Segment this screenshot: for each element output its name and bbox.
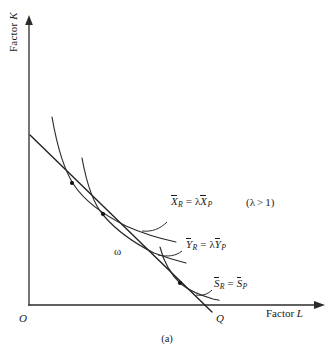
lambda-condition-label: (λ>1)	[246, 197, 274, 208]
isoquant-curve-x	[52, 117, 176, 242]
tangency-point-y	[101, 212, 105, 216]
curve-label-y-rhs-sub: P	[221, 243, 226, 252]
figure-caption: (a)	[0, 334, 334, 345]
curve-label-y-isoquant: YR=λYP	[186, 238, 226, 252]
point-q-label: Q	[216, 313, 224, 324]
y-axis-label-symbol: K	[8, 12, 19, 20]
lambda-condition-close: )	[271, 196, 275, 208]
y-axis	[25, 15, 33, 305]
isoquant-curve-s	[160, 247, 219, 300]
figure-container: Factor K Factor L O Q ω (λ>1) XR=λXP YR=…	[0, 0, 334, 360]
tangency-point-s	[178, 281, 182, 285]
y-axis-label-word: Factor	[7, 23, 19, 52]
lambda-condition-operator: >	[255, 196, 265, 208]
curve-label-x-lhs-symbol: X	[171, 196, 178, 207]
curve-label-s-isoquant: SR=SP	[214, 277, 247, 291]
x-axis-label: Factor L	[266, 308, 303, 319]
curve-label-s-lhs-symbol: S	[214, 278, 220, 289]
curve-label-x-rhs-sub: P	[207, 200, 212, 209]
isoquant-curve-y	[82, 158, 186, 263]
tangency-point-x	[70, 181, 74, 185]
x-axis-label-word: Factor	[266, 307, 294, 319]
y-axis-label: Factor K	[8, 12, 19, 52]
x-axis-label-symbol: L	[297, 308, 303, 319]
curve-label-s-lhs-sub: R	[220, 282, 225, 291]
curve-label-y-rhs-symbol: Y	[215, 239, 221, 250]
x-axis-arrowhead	[314, 301, 325, 309]
origin-label: O	[19, 313, 27, 324]
curve-label-x-isoquant: XR=λXP	[171, 195, 212, 209]
curve-label-x-rhs-symbol: X	[200, 196, 207, 207]
curve-label-s-equals: =	[225, 277, 237, 289]
omega-label: ω	[114, 246, 121, 257]
leader-line-x	[142, 222, 167, 231]
y-axis-arrowhead	[25, 15, 33, 25]
curve-label-y-equals: =	[197, 238, 209, 250]
curve-label-y-lhs-symbol: Y	[186, 239, 192, 250]
factor-intensity-plot	[0, 0, 334, 360]
curve-label-x-equals: =	[183, 195, 195, 207]
curve-label-s-rhs-sub: P	[242, 282, 247, 291]
curve-label-s-rhs-symbol: S	[237, 278, 243, 289]
leader-line-s	[196, 290, 212, 295]
